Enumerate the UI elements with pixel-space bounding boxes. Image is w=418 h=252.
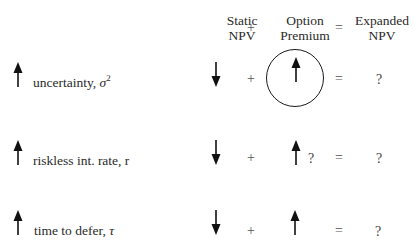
header-static-npv-line1: Static [214, 13, 270, 28]
header-static-npv: Static NPV [214, 13, 270, 43]
up-arrow-icon [13, 210, 23, 235]
up-arrow-icon [13, 140, 23, 165]
header-expanded-npv-line1: Expanded [346, 13, 418, 28]
row-time-to-defer: time to defer, τ + = ? [0, 195, 418, 252]
header-equals: = [331, 20, 347, 36]
up-arrow-icon [13, 62, 23, 87]
expanded-npv-result: ? [371, 72, 387, 88]
factor-label-riskless-rate: riskless int. rate, r [33, 153, 129, 169]
header-expanded-npv: Expanded NPV [346, 13, 418, 43]
row-uncertainty: uncertainty, σ2 + = ? [0, 55, 418, 130]
factor-label-time-to-defer: time to defer, τ [34, 223, 114, 239]
down-arrow-icon [211, 210, 221, 235]
expanded-npv-result: ? [370, 224, 386, 240]
header-expanded-npv-line2: NPV [346, 28, 418, 43]
up-arrow-icon [291, 140, 301, 165]
up-arrow-icon [291, 57, 301, 82]
plus-sign: + [243, 71, 259, 87]
option-premium-qualifier: ? [303, 151, 319, 167]
header-plus: + [243, 20, 259, 36]
tau-symbol: τ [109, 223, 114, 238]
header-static-npv-line2: NPV [214, 28, 270, 43]
row-riskless-rate: riskless int. rate, r + ? = ? [0, 135, 418, 195]
plus-sign: + [243, 150, 259, 166]
factor-label-text: uncertainty, [33, 75, 100, 90]
up-arrow-icon [290, 210, 300, 235]
expanded-npv-result: ? [371, 151, 387, 167]
plus-sign: + [243, 223, 259, 239]
equals-sign: = [331, 71, 347, 87]
down-arrow-icon [211, 62, 221, 87]
superscript: 2 [106, 73, 111, 83]
factor-label-text: time to defer, [34, 223, 109, 238]
factor-label-uncertainty: uncertainty, σ2 [33, 75, 111, 91]
equals-sign: = [331, 150, 347, 166]
down-arrow-icon [211, 140, 221, 165]
equals-sign: = [331, 223, 347, 239]
